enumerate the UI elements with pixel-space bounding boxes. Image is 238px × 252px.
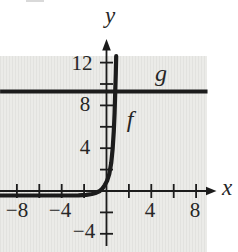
x-tick-label-neg4: −4 — [49, 200, 71, 221]
y-tick-label-8: 8 — [80, 94, 91, 115]
x-axis-arrow-icon — [206, 187, 217, 196]
y-tick-label-4: 4 — [80, 137, 91, 158]
y-tick-label-neg4: −4 — [73, 221, 95, 242]
x-tick-label-8: 8 — [190, 200, 201, 221]
graph-canvas — [0, 0, 238, 252]
x-tick-label-neg8: −8 — [6, 200, 28, 221]
curve-f-label: f — [127, 107, 134, 131]
x-axis-label: x — [222, 176, 232, 199]
exponential-graph-figure: y x g f 12 8 4 −4 −8 −4 4 8 — [0, 0, 238, 252]
x-tick-label-4: 4 — [145, 200, 156, 221]
y-axis-label: y — [105, 4, 115, 27]
y-tick-label-12: 12 — [72, 53, 93, 74]
line-g-label: g — [155, 61, 167, 85]
plot-background — [0, 56, 207, 252]
